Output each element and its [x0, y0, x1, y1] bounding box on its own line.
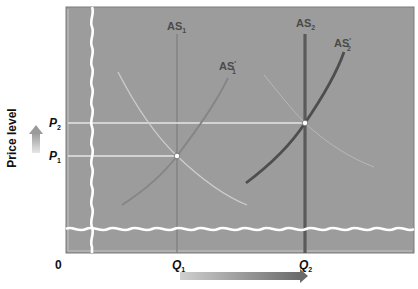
p2-label: P2 — [49, 116, 61, 131]
horizontal-axis-break — [66, 228, 414, 230]
equilibrium-point-1 — [174, 153, 180, 159]
origin-label: 0 — [55, 258, 62, 272]
quantity-right-arrow-icon — [180, 269, 308, 283]
as-ad-diagram: AS1 AS2 AS′1 AS′2 Price level P2 P1 0 Q1… — [0, 0, 418, 289]
q1-label: Q1 — [172, 258, 185, 273]
p1-label: P1 — [49, 149, 61, 164]
y-axis-label: Price level — [5, 108, 19, 167]
graph-panel — [66, 7, 414, 253]
equilibrium-point-2 — [302, 120, 308, 126]
price-up-arrow-icon — [29, 125, 43, 153]
